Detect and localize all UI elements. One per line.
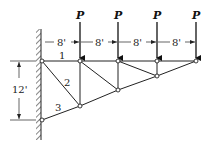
wall-support: [36, 29, 41, 140]
truss-diagram: P P P P 8' 8' 8' 8' 12' 1 2 3: [0, 0, 208, 151]
load-label-2: P: [113, 9, 123, 22]
dimension-label-4: 8': [172, 37, 181, 48]
truss-joints: [40, 59, 198, 122]
dimension-label-height: 12': [12, 84, 27, 95]
dimension-label-2: 8': [95, 37, 104, 48]
load-label-3: P: [152, 9, 162, 22]
member-label-1: 1: [59, 50, 65, 61]
dimension-label-3: 8': [133, 37, 142, 48]
member-label-3: 3: [55, 102, 61, 113]
load-label-4: P: [191, 9, 201, 22]
member-label-2: 2: [64, 77, 70, 88]
dimension-label-1: 8': [57, 37, 66, 48]
load-label-1: P: [75, 9, 85, 22]
